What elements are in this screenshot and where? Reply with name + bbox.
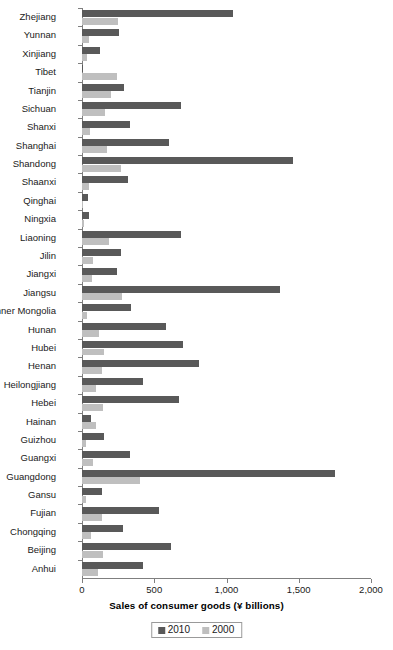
bar-2010 bbox=[82, 323, 166, 330]
bar-row: Anhui bbox=[82, 560, 371, 578]
chart-legend: 2010 2000 bbox=[151, 622, 243, 638]
x-axis-tick-label: 1,500 bbox=[287, 584, 311, 595]
category-label: Guizhou bbox=[0, 431, 56, 449]
category-label: Tibet bbox=[0, 63, 56, 81]
bar-row: Qinghai bbox=[82, 192, 371, 210]
category-label: Hebei bbox=[0, 394, 56, 412]
category-label: Heilongjiang bbox=[0, 376, 56, 394]
bar-2010 bbox=[82, 470, 335, 477]
bar-2010 bbox=[82, 157, 293, 164]
bar-row: Guangdong bbox=[82, 468, 371, 486]
category-label: Hunan bbox=[0, 321, 56, 339]
y-axis-tick bbox=[78, 137, 82, 138]
bar-2000 bbox=[82, 514, 102, 521]
y-axis-tick bbox=[78, 449, 82, 450]
y-axis-tick bbox=[78, 376, 82, 377]
bar-2000 bbox=[82, 18, 118, 25]
bar-2010 bbox=[82, 102, 181, 109]
bar-2010 bbox=[82, 433, 104, 440]
x-axis-tick-label: 1,000 bbox=[215, 584, 239, 595]
bar-2000 bbox=[82, 36, 89, 43]
category-label: Jilin bbox=[0, 247, 56, 265]
y-axis-tick bbox=[78, 210, 82, 211]
bar-2000 bbox=[82, 146, 107, 153]
category-label: Liaoning bbox=[0, 229, 56, 247]
legend-label-2000: 2000 bbox=[212, 625, 234, 635]
bar-2000 bbox=[82, 330, 99, 337]
bar-2010 bbox=[82, 121, 130, 128]
bar-2010 bbox=[82, 304, 131, 311]
bar-row: Tibet bbox=[82, 63, 371, 81]
bar-2010 bbox=[82, 84, 124, 91]
bar-2010 bbox=[82, 525, 123, 532]
bar-row: Henan bbox=[82, 357, 371, 375]
bar-row: Shanghai bbox=[82, 137, 371, 155]
bar-2010 bbox=[82, 286, 280, 293]
category-label: Fujian bbox=[0, 504, 56, 522]
legend-swatch-2010 bbox=[158, 627, 165, 634]
y-axis-tick bbox=[78, 413, 82, 414]
category-label: Qinghai bbox=[0, 192, 56, 210]
bar-2000 bbox=[82, 312, 87, 319]
category-label: Tianjin bbox=[0, 82, 56, 100]
y-axis-tick bbox=[78, 100, 82, 101]
legend-item-2010: 2010 bbox=[158, 625, 190, 635]
category-label: Yunnan bbox=[0, 26, 56, 44]
y-axis-tick bbox=[78, 8, 82, 9]
bar-2010 bbox=[82, 268, 117, 275]
y-axis-tick bbox=[78, 560, 82, 561]
y-axis-tick bbox=[78, 45, 82, 46]
legend-item-2000: 2000 bbox=[202, 625, 234, 635]
y-axis-tick bbox=[78, 265, 82, 266]
bar-2000 bbox=[82, 165, 121, 172]
y-axis-tick bbox=[78, 26, 82, 27]
bar-row: Hubei bbox=[82, 339, 371, 357]
y-axis-tick bbox=[78, 118, 82, 119]
x-axis-tick-label: 2,000 bbox=[359, 584, 383, 595]
x-axis-tick bbox=[299, 579, 300, 583]
category-label: Gansu bbox=[0, 486, 56, 504]
y-axis-tick bbox=[78, 82, 82, 83]
y-axis-tick bbox=[78, 192, 82, 193]
bar-row: Fujian bbox=[82, 504, 371, 522]
category-label: Shandong bbox=[0, 155, 56, 173]
y-axis-tick bbox=[78, 284, 82, 285]
bar-2010 bbox=[82, 488, 102, 495]
bar-row: Hainan bbox=[82, 413, 371, 431]
category-label: Beijing bbox=[0, 541, 56, 559]
y-axis-tick bbox=[78, 541, 82, 542]
bar-row: Zhejiang bbox=[82, 8, 371, 26]
x-axis-tick bbox=[371, 579, 372, 583]
bar-2010 bbox=[82, 249, 121, 256]
category-label: Anhui bbox=[0, 560, 56, 578]
category-label: Inner Mongolia bbox=[0, 302, 56, 320]
bar-2000 bbox=[82, 440, 86, 447]
bar-2010 bbox=[82, 212, 89, 219]
x-axis-tick bbox=[227, 579, 228, 583]
x-axis-tick-label: 500 bbox=[146, 584, 162, 595]
y-axis-tick bbox=[78, 63, 82, 64]
bar-row: Tianjin bbox=[82, 82, 371, 100]
bar-2010 bbox=[82, 415, 91, 422]
y-axis-tick bbox=[78, 394, 82, 395]
category-label: Xinjiang bbox=[0, 45, 56, 63]
category-label: Hainan bbox=[0, 413, 56, 431]
bar-2000 bbox=[82, 54, 87, 61]
bar-row: Chongqing bbox=[82, 523, 371, 541]
y-axis-tick bbox=[78, 173, 82, 174]
category-label: Shanxi bbox=[0, 118, 56, 136]
category-label: Sichuan bbox=[0, 100, 56, 118]
bar-row: Guizhou bbox=[82, 431, 371, 449]
bar-2000 bbox=[82, 349, 104, 356]
bar-row: Liaoning bbox=[82, 229, 371, 247]
y-axis-tick bbox=[78, 302, 82, 303]
category-label: Guangdong bbox=[0, 468, 56, 486]
bar-row: Hebei bbox=[82, 394, 371, 412]
bar-row: Yunnan bbox=[82, 26, 371, 44]
bar-2010 bbox=[82, 29, 119, 36]
category-label: Henan bbox=[0, 357, 56, 375]
bar-2010 bbox=[82, 47, 100, 54]
bar-2000 bbox=[82, 551, 103, 558]
x-axis-tick bbox=[82, 579, 83, 583]
x-axis-tick-label: 0 bbox=[79, 584, 84, 595]
